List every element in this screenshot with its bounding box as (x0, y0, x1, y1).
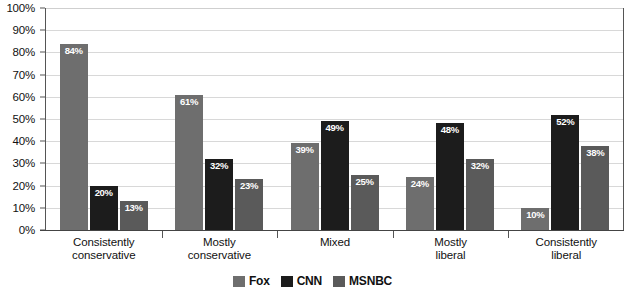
legend-label: Fox (249, 274, 270, 288)
x-axis-label: Mostlyconservative (162, 236, 278, 270)
x-axis-label: Mostlyliberal (393, 236, 509, 270)
x-axis-label: Consistentlyliberal (508, 236, 624, 270)
x-tick-separator (393, 231, 394, 238)
bar-msnbc: 32% (466, 159, 494, 230)
y-tick-label: 50% (13, 113, 35, 125)
bar-fox: 24% (406, 177, 434, 230)
y-axis: 0%10%20%30%40%50%60%70%80%90%100% (0, 8, 40, 230)
bar-group: 84%20%13% (46, 8, 161, 230)
y-tick-label: 40% (13, 135, 35, 147)
x-tick-separator (162, 231, 163, 238)
x-axis-label: Mixed (277, 236, 393, 270)
bar-value-label: 24% (406, 178, 434, 189)
legend-swatch-icon (333, 276, 345, 287)
bar-msnbc: 38% (581, 146, 609, 230)
y-tick-label: 70% (13, 69, 35, 81)
legend-swatch-icon (281, 276, 293, 287)
y-tick-label: 90% (13, 24, 35, 36)
legend-item-fox[interactable]: Fox (233, 274, 270, 288)
chart-legend: FoxCNNMSNBC (0, 274, 625, 288)
y-tick-label: 10% (13, 202, 35, 214)
bar-group: 61%32%23% (161, 8, 276, 230)
x-axis-label-line: liberal (508, 249, 624, 262)
bar-fox: 84% (60, 44, 88, 230)
bar-value-label: 52% (551, 116, 579, 127)
bar-value-label: 20% (90, 187, 118, 198)
bar-value-label: 38% (581, 147, 609, 158)
y-tick-label: 80% (13, 46, 35, 58)
bar-value-label: 32% (466, 160, 494, 171)
legend-swatch-icon (233, 276, 245, 287)
y-tick-label: 100% (6, 2, 35, 14)
x-axis-label-line: conservative (162, 249, 278, 262)
bar-value-label: 32% (205, 160, 233, 171)
bar-value-label: 10% (521, 209, 549, 220)
y-tick-label: 60% (13, 91, 35, 103)
bar-group: 24%48%32% (392, 8, 507, 230)
x-axis-label: Consistentlyconservative (46, 236, 162, 270)
bar-cnn: 32% (205, 159, 233, 230)
bar-group: 10%52%38% (508, 8, 623, 230)
bar-value-label: 84% (60, 45, 88, 56)
bar-fox: 39% (291, 143, 319, 230)
x-axis-label-line: Mostly (393, 236, 509, 249)
legend-item-cnn[interactable]: CNN (281, 274, 322, 288)
x-axis-label-line: conservative (46, 249, 162, 262)
x-axis-label-line: liberal (393, 249, 509, 262)
legend-label: CNN (297, 274, 322, 288)
x-axis-line (40, 230, 624, 231)
bar-value-label: 61% (175, 96, 203, 107)
bar-groups: 84%20%13%61%32%23%39%49%25%24%48%32%10%5… (46, 8, 623, 230)
bar-msnbc: 23% (235, 179, 263, 230)
bar-value-label: 13% (120, 202, 148, 213)
y-tick-label: 0% (19, 224, 35, 236)
bar-value-label: 48% (436, 124, 464, 135)
bar-msnbc: 13% (120, 201, 148, 230)
bar-cnn: 49% (321, 121, 349, 230)
y-tick-label: 30% (13, 157, 35, 169)
y-tick-label: 20% (13, 180, 35, 192)
bar-value-label: 25% (351, 176, 379, 187)
x-axis-label-line: Mostly (162, 236, 278, 249)
legend-item-msnbc[interactable]: MSNBC (333, 274, 392, 288)
bar-chart: 0%10%20%30%40%50%60%70%80%90%100% 84%20%… (0, 0, 625, 294)
bar-cnn: 20% (90, 186, 118, 230)
plot-area: 84%20%13%61%32%23%39%49%25%24%48%32%10%5… (46, 8, 624, 230)
x-axis-label-line: Consistently (46, 236, 162, 249)
bar-value-label: 39% (291, 144, 319, 155)
x-axis-label-line: Mixed (277, 236, 393, 249)
bar-fox: 10% (521, 208, 549, 230)
bar-value-label: 23% (235, 180, 263, 191)
bar-group: 39%49%25% (277, 8, 392, 230)
x-tick-separator (508, 231, 509, 238)
legend-label: MSNBC (349, 274, 392, 288)
x-axis-label-line: Consistently (508, 236, 624, 249)
bar-cnn: 48% (436, 123, 464, 230)
bar-cnn: 52% (551, 115, 579, 230)
bar-value-label: 49% (321, 122, 349, 133)
x-axis-labels: ConsistentlyconservativeMostlyconservati… (46, 236, 624, 270)
x-tick-separator (277, 231, 278, 238)
bar-fox: 61% (175, 95, 203, 230)
bar-msnbc: 25% (351, 175, 379, 231)
